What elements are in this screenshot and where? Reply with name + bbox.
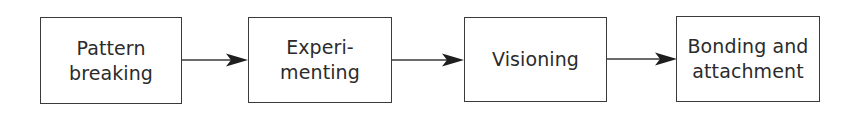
arrow-right-icon [392,53,464,67]
node-pattern-breaking: Pattern breaking [40,17,182,104]
arrow-right-icon [607,52,677,66]
node-label-line: Experi- [286,35,354,60]
node-label-line: Pattern [76,36,145,61]
node-visioning: Visioning [464,17,607,102]
node-label-line: menting [280,60,360,85]
flow-diagram: Pattern breaking Experi- menting Visioni… [0,0,861,125]
node-label-line: Visioning [492,47,579,72]
node-label-line: Bonding and [687,34,808,59]
node-experimenting: Experi- menting [248,17,392,103]
node-label-line: breaking [69,61,153,86]
node-label-line: attachment [692,59,803,84]
node-bonding-and-attachment: Bonding and attachment [676,16,820,102]
arrow-right-icon [182,53,248,67]
